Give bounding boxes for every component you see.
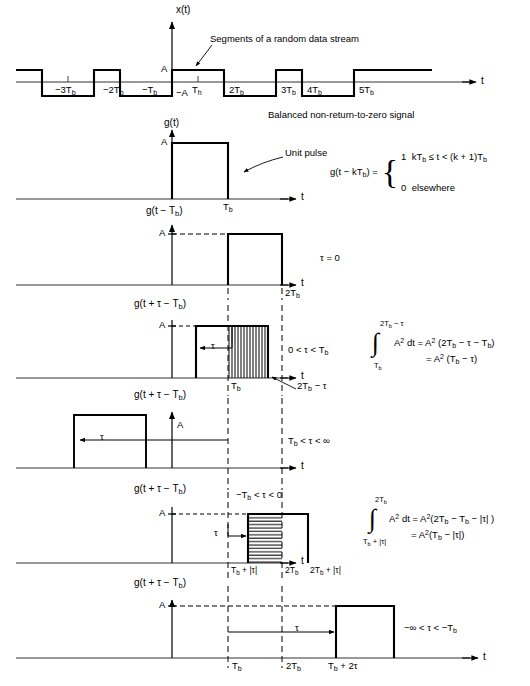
panel6-taxis-label: t xyxy=(301,556,304,566)
panel4-graph xyxy=(16,320,296,389)
panel7-tick-tb-plus-2tau: Tb + 2τ xyxy=(328,661,358,672)
panel7-condition: −∞ < τ < −Tb xyxy=(404,623,457,634)
panel1-tick-2tb: 2Tb xyxy=(229,85,244,96)
panel4-tick-tb: Tb xyxy=(231,381,241,392)
panel6-result-line2: = A2(Tb − |τ|) xyxy=(411,529,464,541)
panel5-amp-label: A xyxy=(177,420,183,430)
panel3-amp-label: A xyxy=(159,228,165,238)
panel3-ylabel: g(t − Tb) xyxy=(146,206,182,217)
panel1-ylabel: x(t) xyxy=(176,5,190,15)
figure-root: x(t) Segments of a random data stream A … xyxy=(0,0,530,686)
panel3-tick-2tb: 2Tb xyxy=(285,288,300,299)
panel2-brace: { xyxy=(382,155,398,189)
panel6-tau-label: τ xyxy=(214,528,218,538)
panel2-equation-lhs: g(t − kTb) = xyxy=(330,167,378,178)
panel6-tick-2tb: 2Tb xyxy=(285,566,298,576)
panel1-callout: Segments of a random data stream xyxy=(210,34,359,44)
panel2-equation: g(t − kTb) = { 1 kTb ≤ t < (k + 1)Tb 0 e… xyxy=(330,152,487,192)
panel3-graph xyxy=(16,225,296,285)
panel4-tick-2tb-minus-tau: 2Tb − τ xyxy=(297,381,327,392)
panel4-integrand: A2 dt = A2 (2Tb − τ − Tb) xyxy=(394,337,494,349)
panel1-tick-minus2tb: −2Tb xyxy=(103,85,124,96)
panel6-integral-upper: 2Tb xyxy=(375,496,387,505)
panel2-tick-tb: Tb xyxy=(223,202,233,213)
panel1-tick-minus3tb: −3Tb xyxy=(55,85,76,96)
panel4-condition: 0 < τ < Tb xyxy=(288,345,328,356)
panel5-graph xyxy=(16,412,296,468)
panel5-tau-label: τ xyxy=(100,432,104,442)
panel4-ylabel: g(t + τ − Tb) xyxy=(134,299,186,310)
panel4-taxis-label: t xyxy=(301,371,304,381)
panel7-taxis-label: t xyxy=(483,652,486,662)
panel6-integral-lower: Tb + |τ| xyxy=(363,538,386,547)
panel2-ylabel: g(t) xyxy=(164,118,179,128)
panel5-condition: Tb < τ < ∞ xyxy=(288,436,330,447)
panel1-amp-label: A xyxy=(161,64,167,74)
panel1-neg-amp-label: −A xyxy=(176,88,188,98)
panel7-tick-tb: Tb xyxy=(232,661,242,672)
panel1-tick-tb: Th xyxy=(192,85,202,96)
panel4-tau-label: τ xyxy=(211,341,215,351)
panel1-tick-minustb: −Tb xyxy=(142,85,157,96)
panel4-amp-label: A xyxy=(159,320,165,330)
panel3-condition: τ = 0 xyxy=(320,253,340,263)
panel7-tau-label: τ xyxy=(295,623,299,633)
panel4-integral-lower: Tb xyxy=(374,362,382,371)
panel7-amp-label: A xyxy=(159,600,165,610)
panel1-caption: Balanced non-return-to-zero signal xyxy=(268,110,414,120)
panel5-taxis-label: t xyxy=(301,461,304,471)
panel6-condition: −Tb < τ < 0 xyxy=(236,490,282,501)
panel6-integral-sign: ∫ xyxy=(369,506,376,532)
panel6-tick-2tb-plus: 2Tb + |τ| xyxy=(310,566,341,576)
panel2-taxis-label: t xyxy=(301,192,304,202)
panel2-case1: 1 kTb ≤ t < (k + 1)Tb xyxy=(401,152,487,163)
panel2-case2: 0 elsewhere xyxy=(401,183,487,193)
panel1-tick-4tb: 4Tb xyxy=(307,85,322,96)
panel6-integrand: A2 dt = A2(2Tb − Tb − |τ| ) xyxy=(389,513,494,525)
panel2-callout: Unit pulse xyxy=(285,148,327,158)
panel4-integral-upper: 2Tb − τ xyxy=(380,320,403,329)
panel1-tick-3tb: 3Tb xyxy=(281,85,296,96)
panel6-tick-tb-plus: Tb + |τ| xyxy=(231,566,257,576)
panel2-graph xyxy=(16,130,296,199)
panel5-ylabel: g(t + τ − Tb) xyxy=(134,390,186,401)
panel2-amp-label: A xyxy=(161,137,167,147)
panel6-ylabel: g(t + τ − Tb) xyxy=(134,484,186,495)
panel3-taxis-label: t xyxy=(301,278,304,288)
panel7-ylabel: g(t + τ − Tb) xyxy=(134,578,186,589)
panel1-tick-5tb: 5Tb xyxy=(359,85,374,96)
panel1-taxis-label: t xyxy=(481,76,484,86)
panel6-amp-label: A xyxy=(159,508,165,518)
panel4-integral-sign: ∫ xyxy=(372,330,379,356)
panel7-tick-2tb: 2Tb xyxy=(286,661,301,672)
panel4-result-line2: = A2 (Tb − τ) xyxy=(426,353,477,365)
